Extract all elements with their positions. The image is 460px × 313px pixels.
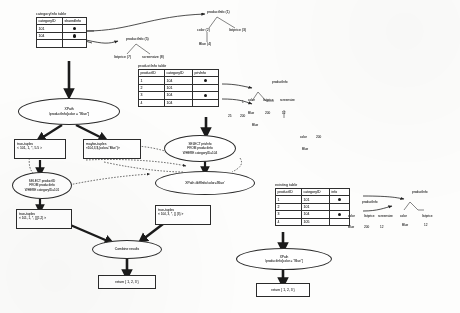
- tree-child-label: color: [400, 214, 407, 218]
- operator-select-right[interactable]: SELECT privInfo FROM productInfo WHERE c…: [164, 135, 236, 162]
- operator-line-1: Combine results: [115, 247, 140, 251]
- cell-info: [330, 196, 350, 203]
- cell-sharedinfo: [63, 32, 87, 39]
- cell-categoryid: [37, 40, 63, 47]
- column-header: categoryID: [37, 18, 63, 25]
- tree-root-label: productInfo: [272, 80, 287, 84]
- operator-xpath-mid[interactable]: XPath /diffInfo/color='Blue': [155, 171, 255, 195]
- box-maybe-tuples-1: maybe-tuples <104,3,$,(color="Blue")>: [83, 139, 141, 159]
- column-header: info: [330, 189, 350, 196]
- cell-info: [330, 203, 350, 210]
- tree-child-label: listprice: [422, 214, 433, 218]
- operator-select-left[interactable]: SELECT productID FROM productInfo WHERE …: [12, 172, 72, 199]
- box-value: < 104, 3, *, {} {3} >: [158, 212, 208, 217]
- box-value: return { 1, 2, 3 }: [115, 280, 138, 285]
- table-header-row: productID categoryID info: [276, 189, 350, 196]
- tree-value-label: Blue: [402, 223, 408, 227]
- tree-priv-stub-2: color 200 Blue: [300, 135, 340, 165]
- box-value: < 101, 1, *, {}{1,2} >: [19, 216, 69, 221]
- blob-icon: [338, 213, 342, 217]
- grid: categoryID sharedInfo 101 104: [36, 17, 87, 48]
- cell-categoryid: 101: [37, 25, 63, 32]
- table-row: 104: [37, 32, 87, 39]
- table-row: 2 101: [139, 84, 219, 91]
- tree-stub-label: 1: [242, 100, 244, 104]
- table-row: [37, 40, 87, 47]
- cell-privinfo: [193, 92, 219, 99]
- tree-child-label: color (2): [197, 28, 210, 32]
- grid: productID categoryID privInfo 1 104 2 10…: [138, 69, 219, 107]
- operator-line-3: WHERE categoryID=104: [183, 151, 217, 155]
- table-header-row: productID categoryID privInfo: [139, 70, 219, 77]
- cell-categoryid: 104: [165, 77, 193, 84]
- table-header-row: categoryID sharedInfo: [37, 18, 87, 25]
- tree-root-label: productInfo (1): [207, 10, 230, 14]
- cell-info: [330, 218, 350, 225]
- cell-privinfo: [193, 99, 219, 106]
- cell-categoryid: 104: [165, 92, 193, 99]
- tree-child-label: screensize: [280, 98, 295, 102]
- cell-productid: 2: [276, 203, 302, 210]
- tree-edges: [195, 8, 290, 60]
- table-caption: productInfo table: [138, 64, 219, 68]
- table-productinfo: productInfo table productID categoryID p…: [138, 64, 219, 107]
- box-return-left: return { 1, 2, 3 }: [98, 275, 156, 289]
- table-row: 2 101: [276, 203, 350, 210]
- tree-shared-top: productInfo (1) color (2) listprice (3) …: [195, 8, 290, 60]
- box-value: <104,3,$,(color="Blue")>: [86, 146, 138, 151]
- box-true-tuples-1: true-tuples < 101, 1, *, 5.5 >: [14, 139, 66, 159]
- operator-xpath-left[interactable]: XPath /productInfo[color = "Blue"]: [18, 98, 120, 125]
- cell-privinfo: [193, 77, 219, 84]
- tree-stub-label: 200: [240, 114, 245, 118]
- cell-info: [330, 211, 350, 218]
- column-header: categoryID: [302, 189, 330, 196]
- cell-categoryid: 104: [302, 211, 330, 218]
- tree-root-label: productInfo: [412, 190, 427, 194]
- tree-root-label: productInfo (5): [126, 37, 149, 41]
- blob-icon: [204, 79, 208, 83]
- cell-categoryid: 105: [302, 218, 330, 225]
- cell-categoryid: 104: [37, 32, 63, 39]
- cell-productid: 2: [139, 84, 165, 91]
- cell-productid: 1: [139, 77, 165, 84]
- table-row: 3 104: [139, 92, 219, 99]
- operator-xpath-right[interactable]: XPath /productInfo[color = "Blue"]: [236, 248, 332, 270]
- column-header: categoryID: [165, 70, 193, 77]
- cell-categoryid: 104: [165, 99, 193, 106]
- tree-value-label: 12: [380, 225, 383, 229]
- cell-privinfo: [193, 84, 219, 91]
- operator-line-2: /productInfo[color = "Blue"]: [49, 112, 89, 116]
- blob-icon: [338, 198, 342, 202]
- tree-stub-label: Blue: [302, 147, 308, 151]
- column-header: productID: [139, 70, 165, 77]
- cell-productid: 4: [276, 218, 302, 225]
- tree-child-label: listprice (3): [229, 28, 246, 32]
- tree-value-label: Blue: [348, 225, 354, 229]
- tree-priv-right-2: productInfo color listprice Blue 12: [398, 192, 453, 230]
- table-row: 1 101: [276, 196, 350, 203]
- table-caption: categoryInfo table: [36, 12, 87, 16]
- column-header: productID: [276, 189, 302, 196]
- tree-value-label: 200: [364, 225, 369, 229]
- table-caption: existing table: [275, 183, 350, 187]
- table-row: 4 105: [276, 218, 350, 225]
- tree-value-label: 12: [282, 111, 285, 115]
- tree-priv-small-2: productInfo color listprice screensize B…: [350, 200, 396, 234]
- figure-canvas: categoryInfo table categoryID sharedInfo…: [0, 0, 460, 313]
- operator-combine-results[interactable]: Combine results: [92, 240, 162, 259]
- cell-categoryid: 101: [302, 196, 330, 203]
- blob-icon: [204, 94, 208, 98]
- operator-line-1: XPath /diffInfo/color='Blue': [185, 181, 225, 185]
- table-categoryinfo: categoryInfo table categoryID sharedInfo…: [36, 12, 87, 48]
- table-row: 4 104: [139, 99, 219, 106]
- tree-shared-mid: productInfo (5) listprice (7) screensize…: [118, 36, 203, 64]
- table-row: 3 104: [276, 211, 350, 218]
- operator-line-3: WHERE categoryID=101: [25, 188, 59, 192]
- tree-stub-label: Blue: [252, 123, 258, 127]
- column-header: sharedInfo: [63, 18, 87, 25]
- tree-root-label: productInfo: [362, 200, 377, 204]
- table-row: 101: [37, 25, 87, 32]
- blob-icon: [73, 34, 77, 38]
- cell-productid: 4: [139, 99, 165, 106]
- cell-categoryid: 101: [302, 203, 330, 210]
